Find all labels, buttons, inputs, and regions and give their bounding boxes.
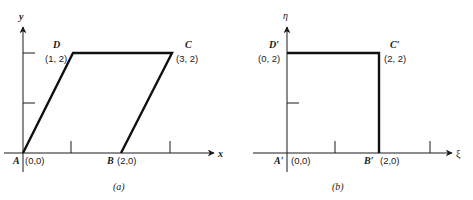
xi-axis-label: ξ	[456, 148, 461, 160]
panel-a-caption: (a)	[113, 181, 125, 193]
vertex-c-prime-coord: (2, 2)	[384, 53, 406, 64]
parallelogram-shape	[23, 53, 172, 153]
vertex-c-coord: (3, 2)	[176, 53, 198, 64]
eta-axis-label: η	[283, 10, 288, 21]
vertex-d-name: D	[52, 39, 60, 50]
vertex-d-prime-name: D′	[268, 39, 279, 50]
panel-b: η ξ A′ (0,0) B′ (2,0) C′ (2, 2) D′ (0, 2…	[253, 10, 461, 193]
vertex-a-prime-name: A′	[273, 155, 284, 166]
vertex-b-prime-coord: (2,0)	[380, 155, 400, 166]
vertex-a-coord: (0,0)	[25, 155, 45, 166]
vertex-c-name: C	[185, 39, 192, 50]
vertex-c-prime-name: C′	[390, 39, 400, 50]
vertex-b-prime-name: B′	[363, 155, 374, 166]
y-axis-label: y	[18, 11, 24, 22]
vertex-d-prime-coord: (0, 2)	[258, 53, 280, 64]
square-shape	[287, 53, 379, 153]
vertex-a-prime-coord: (0,0)	[291, 155, 311, 166]
vertex-b-coord: (2,0)	[117, 155, 137, 166]
vertex-a-name: A	[12, 155, 20, 166]
vertex-b-name: B	[106, 155, 114, 166]
diagram-canvas: y x A (0,0) B (2,0) C (3, 2) D (1, 2) (a…	[0, 0, 473, 200]
x-axis-label: x	[217, 148, 223, 159]
panel-a: y x A (0,0) B (2,0) C (3, 2) D (1, 2) (a…	[4, 11, 223, 193]
panel-b-caption: (b)	[332, 181, 344, 193]
vertex-d-coord: (1, 2)	[45, 53, 67, 64]
